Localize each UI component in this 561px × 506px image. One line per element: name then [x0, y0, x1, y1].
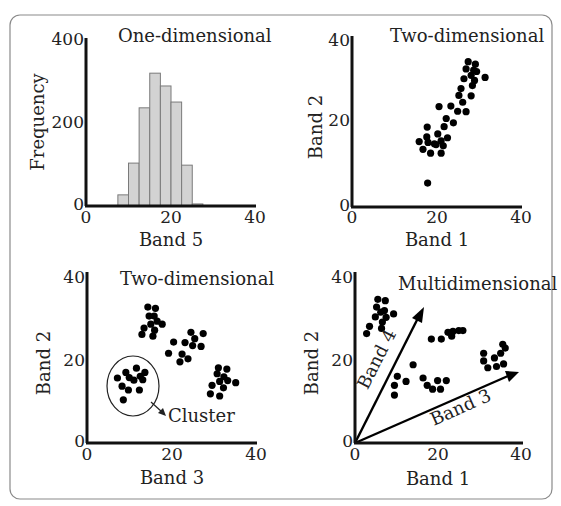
y-axis-label: Band 2 [33, 331, 54, 395]
data-point [181, 339, 188, 346]
data-point [500, 360, 507, 367]
data-point [419, 374, 426, 381]
data-point [419, 146, 426, 153]
scatter-clusters [114, 303, 239, 403]
data-point [144, 303, 151, 310]
data-point [480, 350, 487, 357]
data-point [165, 350, 172, 357]
x-axis-label: Band 5 [139, 229, 203, 250]
data-point [220, 384, 227, 391]
data-point [444, 134, 451, 141]
data-point [424, 179, 431, 186]
x-tick-0: 0 [81, 207, 92, 227]
x-tick-0: 0 [347, 207, 358, 227]
data-point [402, 378, 409, 385]
y-tick-40: 40 [328, 30, 350, 50]
x-axis-label: Band 1 [406, 468, 470, 489]
y-tick-40: 40 [63, 267, 85, 287]
data-point [200, 330, 207, 337]
data-point [120, 396, 127, 403]
data-point [432, 141, 439, 148]
data-point [391, 382, 398, 389]
data-point [216, 378, 223, 385]
data-point [468, 92, 475, 99]
band4-arrow-head [412, 307, 424, 323]
data-point [440, 142, 447, 149]
data-point [465, 58, 472, 65]
data-point [460, 75, 467, 82]
data-point [114, 374, 121, 381]
cluster-ellipse [107, 356, 159, 416]
y-axis-label: Band 2 [301, 331, 322, 395]
data-point [469, 82, 476, 89]
histogram-bar [160, 86, 171, 206]
data-point [450, 119, 457, 126]
data-point [434, 130, 441, 137]
data-point [139, 376, 146, 383]
data-point [176, 358, 183, 365]
histogram-bar [129, 163, 140, 206]
panel-two-dimensional-band1: Two-dimensional 40 20 0 0 20 40 Band 1 B… [305, 25, 544, 250]
panel-title: Two-dimensional [120, 268, 274, 289]
data-point [187, 329, 194, 336]
data-point [484, 364, 491, 371]
data-point [437, 386, 444, 393]
data-point [377, 309, 384, 316]
data-point [223, 365, 230, 372]
data-point [438, 150, 445, 157]
data-point [138, 331, 145, 338]
data-point [136, 386, 143, 393]
y-axis-label: Frequency [27, 72, 48, 170]
data-point [462, 65, 469, 72]
data-point [424, 139, 431, 146]
data-point [363, 330, 370, 337]
y-tick-400: 400 [52, 29, 84, 49]
data-point [159, 321, 166, 328]
panel-title: Multidimensional [398, 273, 558, 294]
panel-two-dimensional-band3: Cluster Two-dimensional 40 20 0 0 20 40 … [33, 267, 274, 488]
data-point [178, 350, 185, 357]
data-point [197, 343, 204, 350]
data-point [394, 373, 401, 380]
data-point [216, 392, 223, 399]
data-point [382, 297, 389, 304]
data-point [372, 313, 379, 320]
data-point [434, 377, 441, 384]
data-point [391, 392, 398, 399]
data-point [481, 74, 488, 81]
data-point [232, 379, 239, 386]
y-tick-20: 20 [331, 350, 353, 370]
histogram-bar [150, 73, 161, 206]
data-point [454, 108, 461, 115]
data-point [366, 323, 373, 330]
data-point [207, 390, 214, 397]
data-point [140, 324, 147, 331]
data-point [424, 123, 431, 130]
x-tick-20: 20 [427, 444, 449, 464]
data-point [441, 123, 448, 130]
cluster-arrow [151, 402, 162, 412]
panel-title: One-dimensional [118, 25, 272, 46]
data-point [416, 138, 423, 145]
x-tick-20: 20 [160, 207, 182, 227]
x-tick-0: 0 [82, 444, 93, 464]
data-point [429, 386, 436, 393]
data-point [147, 321, 154, 328]
data-point [410, 361, 417, 368]
data-point [457, 85, 464, 92]
x-tick-40: 40 [510, 444, 532, 464]
data-point [435, 103, 442, 110]
data-point [191, 335, 198, 342]
histogram-bar [171, 102, 182, 206]
cluster-label: Cluster [168, 405, 235, 426]
y-tick-20: 20 [328, 110, 350, 130]
panel-title: Two-dimensional [390, 25, 544, 46]
data-point [214, 370, 221, 377]
histogram-bars [118, 73, 203, 206]
data-point [208, 382, 215, 389]
data-point [149, 333, 156, 340]
panel-one-dimensional: One-dimensional 400 200 0 0 20 40 Band 5… [27, 25, 272, 250]
data-point [459, 327, 466, 334]
x-tick-40: 40 [245, 444, 267, 464]
data-point [447, 103, 454, 110]
